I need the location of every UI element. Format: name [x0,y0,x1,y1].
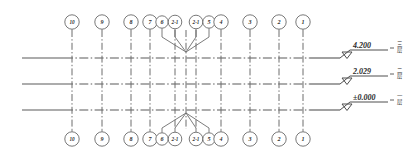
grid-bubble-label: 2 [276,136,280,142]
grid-bubble-label: 1 [301,136,304,142]
grid-bubble-label: 2-1 [192,136,200,142]
elevation-value: ±0.000 [353,93,375,102]
grid-bubble-label: 4 [218,136,222,142]
grid-bubble-label: 3 [247,19,251,25]
branch-leader-top-2 [186,37,196,52]
grid-bubble-label: 2-1 [171,136,179,142]
branch-leader-top-1 [175,37,186,52]
grid-bubble-label: 4 [218,19,222,25]
drawing-canvas-container: 1098762-12-154321 1098762-12-154321 4.20… [0,0,411,161]
grid-bubble-label: 9 [100,136,103,142]
grid-bubble-label: 10 [69,19,75,25]
grid-bubble-label: 2-1 [192,19,200,25]
floor-level-lines [22,58,340,110]
grid-bubble-label: 1 [301,19,304,25]
grid-bubble-label: 8 [129,19,132,25]
grid-bubble-label: 5 [207,19,210,25]
grid-bubble-row-bottom[interactable]: 1098762-12-154321 [65,128,310,146]
grid-bubble-label: 5 [207,136,210,142]
elevation-floor-name-char: 层 [397,73,403,80]
elevation-floor-name-char: 层 [397,47,403,54]
branch-leader-top-3 [186,37,209,52]
structural-grid-drawing: 1098762-12-154321 1098762-12-154321 4.20… [0,0,411,161]
branch-leader-bottom-3 [186,113,209,128]
grid-bubble-label: 2 [276,19,280,25]
grid-bubble-label: 2-1 [171,19,179,25]
grid-bubble-label: 10 [69,136,75,142]
branch-leader-bottom-2 [186,113,196,128]
elevation-markers: 4.200三层2.029二层±0.000一层 [340,41,403,111]
elevation-value: 2.029 [352,67,371,76]
elevation-value: 4.200 [352,41,371,50]
grid-bubble-label: 9 [100,19,103,25]
branch-leader-bottom-0 [162,113,186,128]
branch-leader-bottom-1 [175,113,186,128]
branch-leader-top-0 [162,37,186,52]
elevation-floor-name-char: 层 [397,99,403,106]
grid-bubble-label: 3 [247,136,251,142]
grid-bubble-label: 8 [129,136,132,142]
